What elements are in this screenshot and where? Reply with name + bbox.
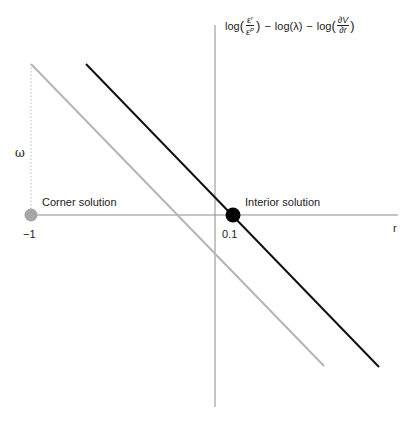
x-axis-label: r xyxy=(393,222,397,234)
y-axis-label: log ( εr εP ) − log (λ) − log ( ∂V ∂r ) xyxy=(225,14,355,37)
open-paren-1: ( xyxy=(240,18,244,33)
diagram-canvas xyxy=(0,0,412,421)
close-paren-3: ) xyxy=(350,18,354,33)
open-paren-3: ( xyxy=(331,18,335,33)
partial-r-denominator: ∂r xyxy=(338,26,347,35)
interior-solution-dot xyxy=(226,208,241,223)
partial-derivative-fraction: ∂V ∂r xyxy=(337,16,349,35)
log-text-2: log xyxy=(275,20,290,32)
close-paren-1: ) xyxy=(256,18,260,33)
epsilon-r-numerator: εr xyxy=(246,14,254,26)
corner-solution-dot xyxy=(25,209,38,222)
tick-minus-one: −1 xyxy=(23,228,36,240)
minus-sign-1: − xyxy=(264,20,270,32)
corner-solution-label: Corner solution xyxy=(42,196,117,208)
epsilon-ratio-fraction: εr εP xyxy=(245,14,255,37)
omega-label: ω xyxy=(15,146,25,160)
epsilon-p-denominator: εP xyxy=(245,26,255,37)
interior-solution-label: Interior solution xyxy=(245,196,320,208)
log-text-1: log xyxy=(225,20,240,32)
tick-point-one: 0.1 xyxy=(222,228,237,240)
lambda-term: (λ) xyxy=(290,20,303,32)
minus-sign-2: − xyxy=(306,20,312,32)
log-text-3: log xyxy=(317,20,332,32)
